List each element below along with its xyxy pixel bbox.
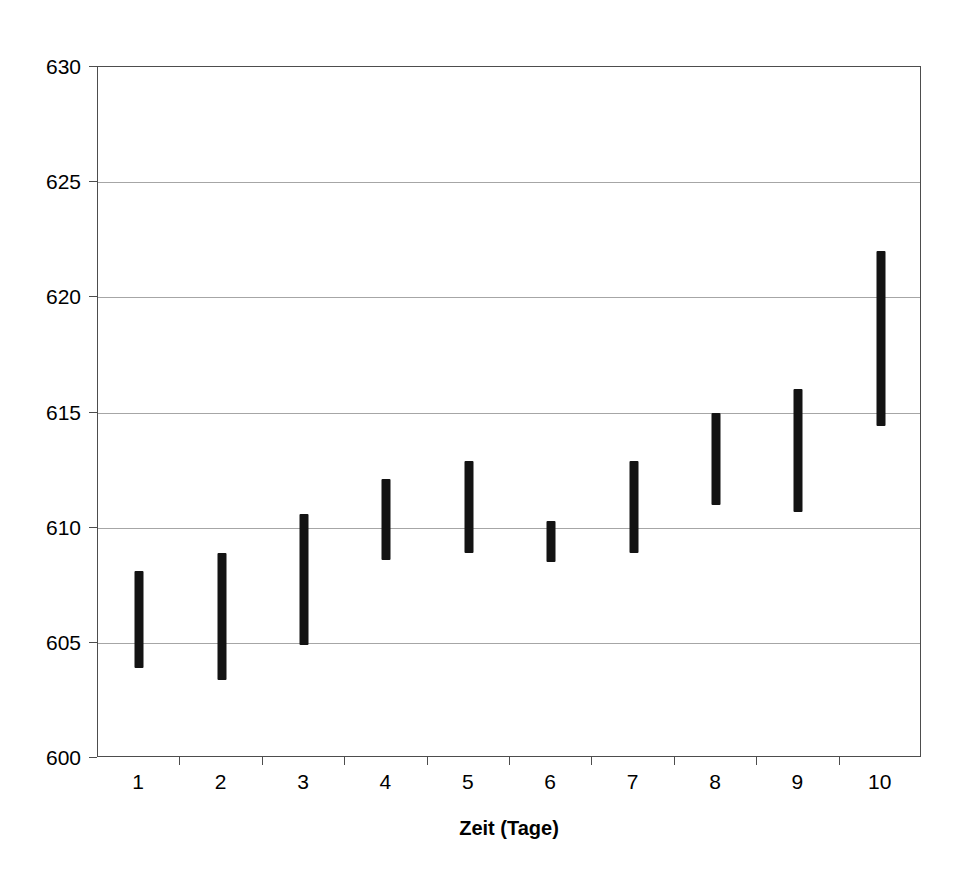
gridline-horizontal <box>98 297 920 298</box>
x-axis-tick-mark <box>591 757 592 765</box>
x-axis-title: Zeit (Tage) <box>97 817 921 840</box>
x-axis-tick-mark <box>674 757 675 765</box>
gridline-horizontal <box>98 528 920 529</box>
x-axis-tick-mark <box>509 757 510 765</box>
x-axis-tick-mark <box>756 757 757 765</box>
x-axis: 12345678910 <box>97 770 921 810</box>
data-bar <box>629 461 638 553</box>
y-axis-tick-mark <box>89 296 97 297</box>
y-axis-tick-label: 620 <box>46 286 81 307</box>
x-axis-tick-label: 9 <box>792 770 804 794</box>
x-axis-tick-label: 5 <box>462 770 474 794</box>
x-axis-tick-label: 7 <box>627 770 639 794</box>
x-axis-tick-label: 3 <box>297 770 309 794</box>
x-axis-tick-label: 10 <box>868 770 891 794</box>
data-bar <box>876 251 885 426</box>
y-axis-tick-mark <box>89 642 97 643</box>
x-axis-tick-mark <box>839 757 840 765</box>
x-axis-tick-label: 1 <box>132 770 144 794</box>
plot-area <box>97 66 921 757</box>
data-bar <box>547 521 556 562</box>
y-axis: 600605610615620625630 <box>0 0 97 891</box>
y-axis-tick-label: 615 <box>46 401 81 422</box>
y-axis-tick-mark <box>89 181 97 182</box>
x-axis-tick-label: 4 <box>380 770 392 794</box>
x-axis-tick-label: 8 <box>709 770 721 794</box>
y-axis-tick-label: 625 <box>46 171 81 192</box>
data-bar <box>794 389 803 511</box>
data-bar <box>464 461 473 553</box>
data-bar <box>712 413 721 505</box>
data-bar <box>135 571 144 668</box>
y-axis-tick-mark <box>89 66 97 67</box>
gridline-horizontal <box>98 182 920 183</box>
x-axis-tick-mark <box>262 757 263 765</box>
chart-container: 600605610615620625630 12345678910 Zeit (… <box>0 0 965 891</box>
y-axis-tick-label: 605 <box>46 631 81 652</box>
x-axis-tick-label: 6 <box>544 770 556 794</box>
data-bar <box>382 479 391 560</box>
y-axis-tick-label: 610 <box>46 516 81 537</box>
x-axis-tick-mark <box>344 757 345 765</box>
y-axis-tick-mark <box>89 412 97 413</box>
y-axis-tick-mark <box>89 527 97 528</box>
x-axis-tick-label: 2 <box>215 770 227 794</box>
x-axis-tick-mark <box>427 757 428 765</box>
data-bar <box>300 514 309 645</box>
y-axis-tick-mark <box>89 757 97 758</box>
data-bar <box>217 553 226 680</box>
x-axis-tick-mark <box>179 757 180 765</box>
y-axis-tick-label: 600 <box>46 747 81 768</box>
y-axis-tick-label: 630 <box>46 56 81 77</box>
